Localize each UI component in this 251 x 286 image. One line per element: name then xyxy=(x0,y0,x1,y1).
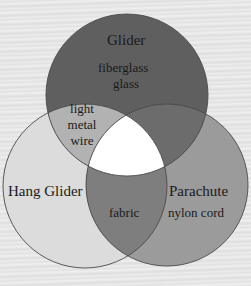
item-wire: wire xyxy=(65,133,99,148)
item-metal: metal xyxy=(65,117,99,132)
item-light: light xyxy=(65,101,99,116)
item-glass: glass xyxy=(113,76,139,91)
label-glider: Glider xyxy=(107,32,145,49)
item-nylon-cord: nylon cord xyxy=(168,205,224,220)
label-hang-glider: Hang Glider xyxy=(8,183,83,200)
label-parachute: Parachute xyxy=(169,183,228,200)
item-fabric: fabric xyxy=(109,205,139,220)
item-fiberglass: fiberglass xyxy=(98,60,148,75)
